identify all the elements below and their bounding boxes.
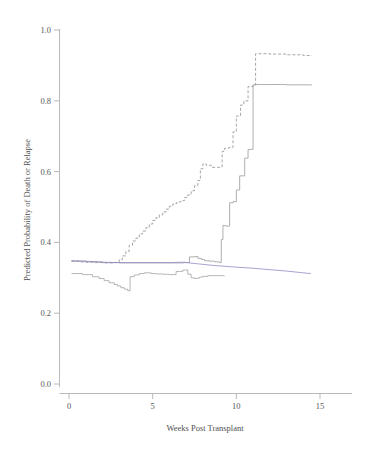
x-tick-label: 0 (67, 401, 71, 411)
x-axis-title: Weeks Post Transplant (166, 423, 244, 433)
series-upper-dashed-step (72, 54, 312, 263)
x-axis-ticks: 051015 (67, 394, 324, 412)
x-tick-label: 15 (316, 401, 325, 411)
series-middle-solid-step (72, 85, 312, 263)
x-tick-label: 10 (232, 401, 241, 411)
y-axis-title: Predicted Probability of Death or Relaps… (22, 139, 32, 281)
y-tick-label: 0.6 (40, 167, 51, 177)
series-flat-blue-line (72, 261, 311, 274)
y-axis-ticks: 0.00.20.40.60.81.0 (40, 25, 59, 389)
chart-figure: 0.00.20.40.60.81.0 051015 Weeks Post Tra… (0, 0, 365, 451)
y-tick-label: 0.4 (40, 237, 51, 247)
series-lower-solid-step (72, 270, 225, 291)
y-tick-label: 0.0 (40, 379, 51, 389)
series-group (72, 54, 312, 291)
line-chart-svg: 0.00.20.40.60.81.0 051015 Weeks Post Tra… (0, 0, 365, 451)
y-tick-label: 0.8 (40, 96, 51, 106)
x-tick-label: 5 (151, 401, 155, 411)
y-tick-label: 1.0 (40, 25, 51, 35)
y-tick-label: 0.2 (40, 308, 51, 318)
